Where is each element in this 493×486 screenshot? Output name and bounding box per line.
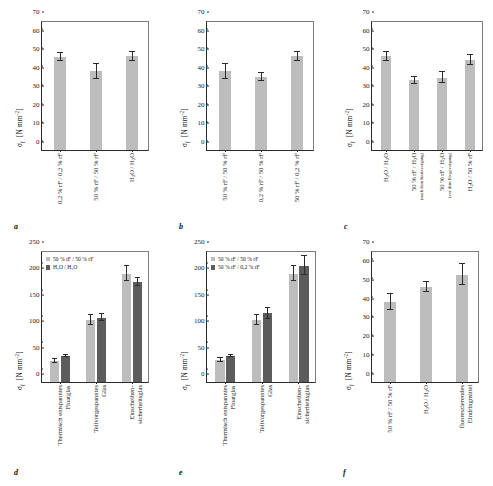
- panel-f-y-axis-title: σf [N mm-2]: [343, 295, 355, 390]
- error-cap-a-2-0: [129, 51, 134, 52]
- bar-e-0-1: [226, 356, 236, 382]
- error-cap-e-2-0: [291, 280, 296, 281]
- panel-e-letter: e: [179, 468, 183, 477]
- error-cap-a-2-0: [129, 60, 134, 61]
- error-cap-c-3-0: [467, 64, 472, 65]
- panel-b-ytick: 0: [201, 138, 207, 146]
- panel-a-ytick: 70: [33, 8, 43, 16]
- panel-d-legend-label-2: H₂O / H₂O: [53, 263, 77, 271]
- bar-d-2-0: [122, 274, 131, 382]
- panel-f-ytick: 70: [363, 238, 373, 246]
- panel-e-legend-item-1: 50 % rF / 50 % rF: [211, 255, 260, 263]
- error-bar-d-2-0: [126, 266, 127, 281]
- error-cap-d-1-0: [88, 324, 93, 325]
- bar-e-2-1: [299, 266, 309, 382]
- panel-e-legend: 50 % rF / 50 % rF 50 % rF / 0,2 % rF: [211, 255, 260, 272]
- bar-f-1-0: [420, 287, 432, 382]
- panel-b-ytick: 60: [198, 27, 208, 35]
- bar-c-2-0: [437, 78, 447, 150]
- bar-b-2-0: [291, 56, 303, 150]
- bar-f-2-0: [456, 275, 468, 382]
- panel-d-legend-item-1: 50 % rF / 50 % rF: [46, 255, 93, 263]
- panel-e-ytick: 100: [194, 317, 207, 325]
- legend-swatch-light-icon: [46, 257, 50, 261]
- bar-c-1-0: [409, 80, 419, 150]
- panel-f-xlabel-2: fluoreszierendesEindringmittel: [458, 385, 474, 428]
- error-cap-d-2-1: [135, 285, 140, 286]
- panel-c-xlabel-1: 50 % rF / H2O(nach dem Kratzvorgang): [410, 153, 425, 200]
- error-cap-f-0-0: [387, 309, 392, 310]
- panel-b-ytick: 10: [198, 119, 208, 127]
- error-cap-d-2-1: [135, 277, 140, 278]
- error-cap-e-0-1: [228, 354, 233, 355]
- panel-d-plot-area: 50 % rF / 50 % rF H₂O / H₂O 050100150200…: [41, 251, 149, 383]
- error-cap-c-2-0: [439, 71, 444, 72]
- bar-d-1-0: [86, 320, 95, 382]
- panel-a-ytick: 10: [33, 119, 43, 127]
- panel-b: σf [N mm-2] 01020304050607050 % rF / 50 …: [165, 0, 325, 240]
- panel-b-ytick: 20: [198, 101, 208, 109]
- panel-c-plot-area: 010203040506070H2O / H2O50 % rF / H2O(na…: [371, 21, 483, 151]
- error-cap-e-0-0: [217, 361, 222, 362]
- panel-d-xlabel-0: Thermisch entspanntesFloatglas: [56, 385, 72, 446]
- panel-e-legend-label-1: 50 % rF / 50 % rF: [218, 255, 258, 263]
- bar-b-1-0: [255, 77, 267, 150]
- error-cap-d-1-1: [99, 313, 104, 314]
- error-cap-b-0-0: [222, 63, 227, 64]
- bar-a-0-0: [54, 57, 66, 150]
- error-cap-f-2-0: [459, 284, 464, 285]
- panel-c-ytick: 40: [363, 64, 373, 72]
- panel-c-xlabel-0: H2O / H2O: [382, 153, 391, 182]
- panel-f-ytick: 30: [363, 313, 373, 321]
- error-bar-e-2-0: [293, 266, 294, 281]
- panel-a: σf [N mm-2] 0102030405060700,2 % rF / 0,…: [0, 0, 160, 240]
- panel-d-ytick: 50: [33, 344, 43, 352]
- panel-a-xlabel-0: 0,2 % rF / 0,2 % rF: [56, 153, 64, 204]
- bar-a-2-0: [126, 56, 138, 150]
- bar-c-3-0: [465, 60, 475, 150]
- error-cap-e-2-1: [301, 255, 306, 256]
- panel-e-ytick: 50: [198, 344, 208, 352]
- error-cap-d-0-1: [63, 354, 68, 355]
- panel-c-ytick: 50: [363, 45, 373, 53]
- panel-e-ytick: 0: [201, 370, 207, 378]
- panel-e-legend-label-2: 50 % rF / 0,2 % rF: [218, 263, 260, 271]
- bar-d-0-0: [50, 361, 59, 382]
- panel-d-legend-label-1: 50 % rF / 50 % rF: [53, 255, 93, 263]
- error-cap-a-0-0: [57, 52, 62, 53]
- panel-a-plot-area: 0102030405060700,2 % rF / 0,2 % rF50 % r…: [41, 21, 149, 151]
- panel-d-ytick: 150: [29, 291, 42, 299]
- panel-c-ytick: 10: [363, 119, 373, 127]
- error-bar-a-1-0: [96, 64, 97, 79]
- panel-e-xlabel-1: TeilvorgespanntesGlas: [258, 385, 274, 433]
- panel-b-y-axis-title: σf [N mm-2]: [179, 52, 191, 147]
- panel-f: σf [N mm-2] 01020304050607050 % rF / 50 …: [333, 243, 493, 486]
- bar-e-0-0: [215, 360, 225, 382]
- legend-swatch-dark-icon: [211, 265, 215, 269]
- error-bar-f-2-0: [462, 264, 463, 285]
- panel-b-xlabel-1: 0,2 % rF / 50 % rF: [257, 153, 265, 202]
- panel-d-legend-item-2: H₂O / H₂O: [46, 263, 93, 271]
- panel-e-xlabel-2: Einscheiben-sicherheitsglas: [295, 385, 311, 424]
- panel-c: σf [N mm-2] 010203040506070H2O / H2O50 %…: [330, 0, 493, 240]
- legend-swatch-light-icon: [211, 257, 215, 261]
- panel-e-y-axis-title: σf [N mm-2]: [179, 295, 191, 390]
- error-cap-c-2-0: [439, 82, 444, 83]
- error-cap-c-0-0: [383, 51, 388, 52]
- panel-f-ytick: 20: [363, 332, 373, 340]
- error-cap-f-0-0: [387, 293, 392, 294]
- panel-c-letter: c: [344, 222, 348, 231]
- error-cap-b-1-0: [258, 80, 263, 81]
- bar-b-0-0: [219, 71, 231, 150]
- panel-b-ytick: 70: [198, 8, 208, 16]
- error-cap-b-1-0: [258, 72, 263, 73]
- panel-b-plot-area: 01020304050607050 % rF / 50 % rF0,2 % rF…: [206, 21, 314, 151]
- figure-root: σf [N mm-2] 0102030405060700,2 % rF / 0,…: [0, 0, 493, 486]
- error-cap-d-1-1: [99, 320, 104, 321]
- panel-c-ytick: 20: [363, 101, 373, 109]
- legend-swatch-dark-icon: [46, 265, 50, 269]
- error-cap-d-2-0: [124, 265, 129, 266]
- error-cap-b-2-0: [294, 51, 299, 52]
- panel-d-ytick: 0: [36, 370, 42, 378]
- error-cap-e-1-1: [265, 307, 270, 308]
